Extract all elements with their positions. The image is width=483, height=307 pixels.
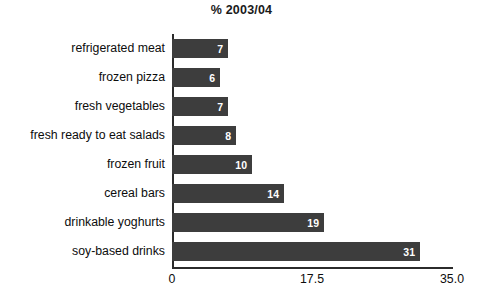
bar: 7	[172, 97, 228, 116]
bar: 6	[172, 68, 220, 87]
bar-value-label: 14	[267, 188, 279, 199]
category-axis-labels: refrigerated meatfrozen pizzafresh veget…	[0, 36, 165, 268]
bar-value-label: 7	[217, 43, 223, 54]
category-label: soy-based drinks	[0, 242, 165, 261]
category-label: fresh ready to eat salads	[0, 126, 165, 145]
bar: 14	[172, 184, 284, 203]
bar-value-label: 7	[217, 101, 223, 112]
x-axis-tick-labels: 017.535.0	[172, 272, 453, 292]
bar: 8	[172, 126, 236, 145]
category-label: frozen pizza	[0, 68, 165, 87]
bar: 19	[172, 213, 324, 232]
bar-value-label: 10	[235, 159, 247, 170]
plot-area: 767810141931	[172, 36, 452, 268]
bar-value-label: 6	[209, 72, 215, 83]
bar: 10	[172, 155, 252, 174]
category-label: fresh vegetables	[0, 97, 165, 116]
category-label: frozen fruit	[0, 155, 165, 174]
bar-chart: % 2003/04 refrigerated meatfrozen pizzaf…	[0, 0, 483, 307]
category-label: cereal bars	[0, 184, 165, 203]
bar: 7	[172, 39, 228, 58]
bar-value-label: 31	[403, 246, 415, 257]
bar-value-label: 19	[307, 217, 319, 228]
category-label: refrigerated meat	[0, 39, 165, 58]
x-tick-label: 35.0	[440, 272, 464, 286]
chart-title: % 2003/04	[0, 3, 483, 17]
bar: 31	[172, 242, 420, 261]
bar-value-label: 8	[225, 130, 231, 141]
x-tick-label: 0	[169, 272, 176, 286]
category-label: drinkable yoghurts	[0, 213, 165, 232]
x-tick-label: 17.5	[300, 272, 324, 286]
